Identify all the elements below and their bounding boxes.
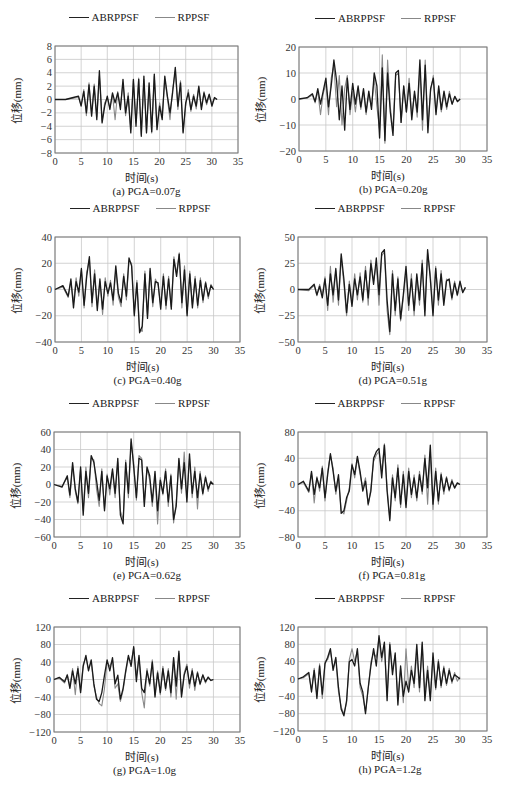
x-tick-label: 35	[482, 154, 493, 165]
y-tick-label: 120	[35, 622, 51, 633]
x-tick-label: 30	[455, 734, 466, 745]
y-tick-label: 0	[47, 284, 52, 295]
x-axis-label: 时间(s)	[371, 553, 405, 569]
x-tick-label: 15	[128, 540, 139, 551]
chart-caption: (e) PGA=0.62g	[113, 569, 181, 581]
y-tick-label: 80	[285, 427, 296, 438]
x-tick-label: 25	[182, 735, 193, 746]
y-tick-label: −8	[41, 148, 52, 159]
line-plot: 05101520253035−8−6−4−202468	[0, 0, 253, 196]
x-tick-label: 10	[103, 345, 114, 356]
chart-panel-h: ABRPPSF RPPSF 05101520253035−120−80−4004…	[253, 588, 506, 784]
y-tick-label: 20	[42, 258, 53, 269]
x-tick-label: 5	[322, 734, 327, 745]
x-tick-label: 30	[208, 735, 219, 746]
x-tick-label: 15	[374, 734, 385, 745]
x-tick-label: 5	[78, 735, 83, 746]
y-tick-label: −20	[36, 310, 52, 321]
y-tick-label: 0	[46, 479, 51, 490]
x-tick-label: 30	[208, 540, 219, 551]
x-tick-label: 10	[102, 156, 113, 167]
x-tick-label: 30	[208, 345, 219, 356]
chart-caption: (h) PGA=1.2g	[359, 763, 422, 775]
y-tick-label: −40	[36, 337, 52, 348]
x-tick-label: 0	[52, 156, 57, 167]
y-tick-label: 60	[41, 427, 52, 438]
x-tick-label: 30	[455, 154, 466, 165]
y-tick-label: 10	[286, 68, 297, 79]
y-tick-label: 40	[285, 656, 296, 667]
x-tick-label: 10	[347, 540, 358, 551]
x-tick-label: 25	[428, 540, 439, 551]
x-axis-label: 时间(s)	[371, 358, 405, 374]
x-tick-label: 10	[347, 734, 358, 745]
x-tick-label: 0	[51, 540, 56, 551]
x-tick-label: 5	[79, 345, 84, 356]
x-axis-label: 时间(s)	[125, 553, 159, 569]
x-tick-label: 10	[102, 735, 113, 746]
y-tick-label: 80	[41, 639, 52, 650]
x-tick-label: 5	[78, 540, 83, 551]
x-tick-label: 15	[374, 345, 385, 356]
y-tick-label: −40	[35, 692, 51, 703]
chart-caption: (b) PGA=0.20g	[359, 183, 428, 195]
x-tick-label: 35	[235, 735, 246, 746]
y-tick-label: 8	[47, 41, 52, 52]
x-tick-label: 25	[428, 734, 439, 745]
y-tick-label: −120	[273, 726, 295, 737]
x-tick-label: 0	[51, 735, 56, 746]
x-tick-label: 35	[482, 345, 493, 356]
chart-panel-d: ABRPPSF RPPSF 05101520253035−50−2502550 …	[253, 196, 506, 392]
x-tick-label: 35	[235, 540, 246, 551]
series-line-abrppsf	[298, 250, 465, 332]
y-axis-label: 位移(mm)	[8, 267, 24, 313]
x-tick-label: 20	[401, 540, 412, 551]
chart-caption: (c) PGA=0.40g	[114, 374, 182, 386]
x-axis-label: 时间(s)	[371, 167, 405, 183]
y-tick-label: 50	[285, 232, 296, 243]
y-tick-label: 120	[279, 622, 295, 633]
x-tick-label: 15	[374, 540, 385, 551]
y-tick-label: −2	[41, 107, 52, 118]
y-tick-label: −120	[29, 727, 51, 738]
x-axis-label: 时间(s)	[126, 358, 160, 374]
y-axis-label: 位移(mm)	[7, 462, 23, 508]
y-tick-label: −80	[279, 708, 295, 719]
y-tick-label: −10	[280, 120, 296, 131]
x-tick-label: 20	[155, 345, 166, 356]
x-tick-label: 10	[102, 540, 113, 551]
y-axis-label: 位移(mm)	[7, 657, 23, 703]
x-tick-label: 35	[482, 734, 493, 745]
x-tick-label: 35	[482, 540, 493, 551]
y-tick-label: −20	[35, 497, 51, 508]
y-tick-label: −40	[279, 505, 295, 516]
x-tick-label: 0	[295, 345, 300, 356]
y-tick-label: 20	[286, 42, 297, 53]
x-tick-label: 20	[401, 345, 412, 356]
x-tick-label: 30	[455, 540, 466, 551]
x-tick-label: 20	[401, 154, 412, 165]
y-tick-label: 4	[47, 67, 53, 78]
y-tick-label: 0	[46, 674, 51, 685]
y-tick-label: 40	[41, 444, 52, 455]
chart-caption: (f) PGA=0.81g	[359, 569, 426, 581]
y-tick-label: 80	[285, 639, 296, 650]
y-tick-label: −6	[41, 134, 52, 145]
x-tick-label: 20	[155, 540, 166, 551]
x-tick-label: 15	[128, 156, 139, 167]
y-tick-label: 0	[290, 284, 295, 295]
x-tick-label: 35	[233, 156, 244, 167]
y-tick-label: 0	[291, 94, 296, 105]
x-tick-label: 0	[296, 154, 301, 165]
y-tick-label: −80	[35, 709, 51, 720]
y-tick-label: −20	[280, 146, 296, 157]
y-axis-label: 位移(mm)	[251, 267, 267, 313]
x-tick-label: 15	[129, 345, 140, 356]
y-tick-label: −80	[279, 532, 295, 543]
y-tick-label: −60	[35, 532, 51, 543]
y-axis-label: 位移(mm)	[251, 657, 267, 703]
x-tick-label: 35	[235, 345, 246, 356]
x-tick-label: 20	[401, 734, 412, 745]
x-axis-label: 时间(s)	[371, 747, 405, 763]
y-tick-label: −25	[279, 310, 295, 321]
